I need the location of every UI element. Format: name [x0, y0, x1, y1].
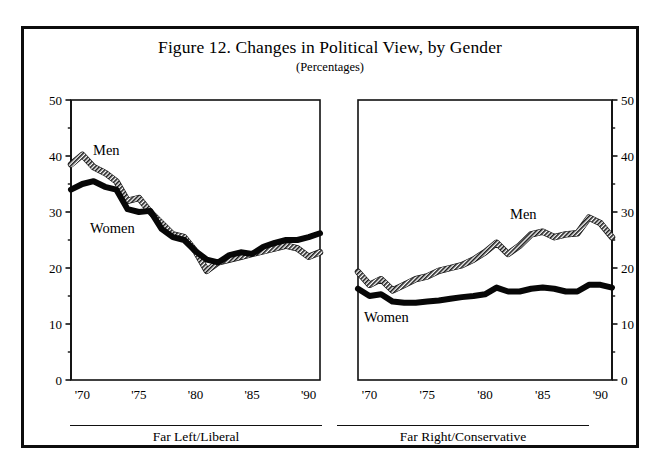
x-tick-label: '90	[301, 387, 316, 402]
chart-panel-far-left-liberal: 01020304050'70'75'80'85'90MenWomen	[24, 29, 334, 445]
series-annotation-women: Women	[364, 309, 409, 325]
x-tick-label: '80	[188, 387, 203, 402]
y-tick-label: 20	[49, 261, 62, 276]
series-annotation-women: Women	[90, 220, 135, 236]
y-tick-label: 10	[49, 317, 62, 332]
axis-caption-right: Far Right/Conservative	[337, 429, 589, 445]
x-tick-label: '80	[477, 387, 492, 402]
x-tick-label: '90	[593, 387, 608, 402]
figure-frame: Figure 12. Changes in Political View, by…	[21, 26, 639, 448]
y-tick-label: 40	[621, 149, 634, 164]
y-tick-label: 30	[49, 205, 62, 220]
y-tick-label: 0	[621, 373, 628, 388]
x-tick-label: '70	[75, 387, 90, 402]
caption-rule-right	[337, 425, 589, 426]
chart-panel-far-right-conservative: 01020304050'70'75'80'85'90MenWomen	[334, 29, 642, 445]
y-tick-label: 50	[49, 93, 62, 108]
x-tick-label: '85	[535, 387, 550, 402]
series-annotation-men: Men	[93, 142, 120, 158]
axis-caption-left: Far Left/Liberal	[70, 429, 322, 445]
x-tick-label: '70	[362, 387, 377, 402]
chart-panels: 01020304050'70'75'80'85'90MenWomen 01020…	[24, 29, 636, 445]
y-tick-label: 50	[621, 93, 634, 108]
x-tick-label: '75	[131, 387, 146, 402]
chart-svg-left: 01020304050'70'75'80'85'90MenWomen	[24, 29, 334, 429]
chart-svg-right: 01020304050'70'75'80'85'90MenWomen	[334, 29, 642, 429]
series-line-men	[358, 218, 612, 291]
caption-rule-left	[70, 425, 322, 426]
series-annotation-men: Men	[510, 206, 537, 222]
y-tick-label: 0	[56, 373, 63, 388]
y-tick-label: 30	[621, 205, 634, 220]
y-tick-label: 10	[621, 317, 634, 332]
y-tick-label: 40	[49, 149, 62, 164]
figure-root: Figure 12. Changes in Political View, by…	[0, 0, 660, 462]
x-tick-label: '85	[244, 387, 259, 402]
y-tick-label: 20	[621, 261, 634, 276]
x-tick-label: '75	[420, 387, 435, 402]
